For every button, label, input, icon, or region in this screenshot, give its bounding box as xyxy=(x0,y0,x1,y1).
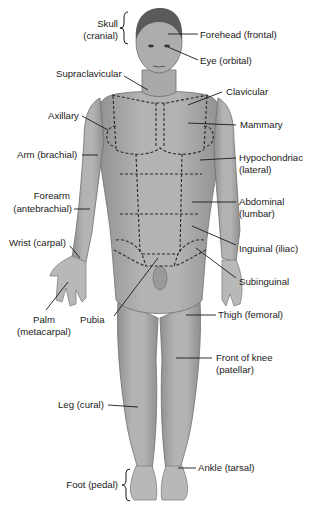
right-leg xyxy=(160,300,201,470)
label-knee-2: (patellar) xyxy=(216,364,254,375)
label-mammary: Mammary xyxy=(240,119,283,130)
label-ankle: Ankle (tarsal) xyxy=(198,462,255,473)
label-axillary: Axillary xyxy=(48,110,79,121)
label-abdominal-1: Abdominal xyxy=(239,196,284,207)
eye-left-mark xyxy=(148,45,154,48)
label-skull-2: (cranial) xyxy=(83,30,118,41)
eye-right-mark xyxy=(164,45,170,48)
label-wrist: Wrist (carpal) xyxy=(9,237,66,248)
label-hypochondriac-1: Hypochondriac xyxy=(239,152,303,163)
body-illustration xyxy=(50,8,242,500)
label-knee-1: Front of knee xyxy=(216,352,273,363)
right-foot xyxy=(161,466,187,500)
skull-brace xyxy=(120,12,128,44)
label-abdominal-2: (lumbar) xyxy=(239,208,275,219)
anatomy-figure: Skull (cranial) Forehead (frontal) Eye (… xyxy=(0,0,315,511)
label-palm-2: (metacarpal) xyxy=(17,326,71,337)
label-inguinal: Inguinal (iliac) xyxy=(239,243,298,254)
label-arm: Arm (brachial) xyxy=(17,149,77,160)
label-forearm-1: Forearm xyxy=(34,190,70,201)
left-arm xyxy=(72,98,104,262)
genital xyxy=(153,266,167,290)
left-foot xyxy=(130,466,156,500)
foot-brace xyxy=(122,469,130,501)
label-pubia: Pubia xyxy=(80,314,105,325)
label-foot: Foot (pedal) xyxy=(66,479,118,490)
label-forearm-2: (antebrachial) xyxy=(13,203,72,214)
label-skull-1: Skull xyxy=(97,18,118,29)
label-palm-1: Palm xyxy=(33,314,55,325)
neck xyxy=(142,70,176,97)
label-leg: Leg (cural) xyxy=(58,399,104,410)
label-clavicular: Clavicular xyxy=(226,86,269,97)
label-hypochondriac-2: (lateral) xyxy=(239,164,272,175)
label-forehead: Forehead (frontal) xyxy=(200,29,277,40)
label-subinguinal: Subinguinal xyxy=(239,276,289,287)
label-thigh: Thigh (femoral) xyxy=(218,309,283,320)
label-supraclavicular: Supraclavicular xyxy=(56,68,122,79)
label-eye: Eye (orbital) xyxy=(200,55,252,66)
left-leg xyxy=(117,300,158,470)
